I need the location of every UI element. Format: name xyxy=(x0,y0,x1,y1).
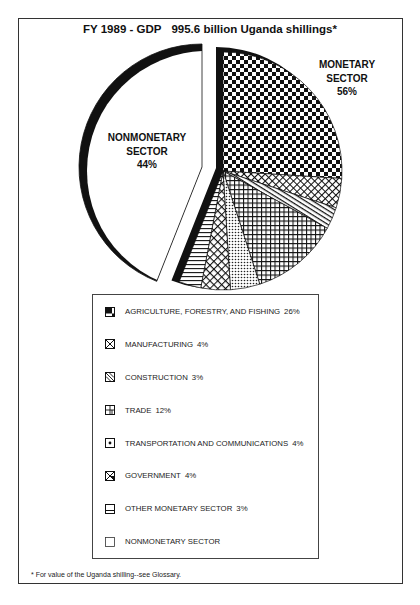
legend-item-manufacturing: MANUFACTURING4% xyxy=(93,328,318,361)
legend-value: 4% xyxy=(185,471,196,480)
legend-label: NONMONETARY SECTOR xyxy=(125,537,220,546)
legend-value: 3% xyxy=(192,373,203,382)
chart-legend: AGRICULTURE, FORESTRY, AND FISHING26% MA… xyxy=(92,294,319,559)
horizontal-stripes-icon xyxy=(105,504,115,514)
legend-value: 12% xyxy=(155,406,171,415)
legend-label: AGRICULTURE, FORESTRY, AND FISHING xyxy=(125,307,280,316)
legend-label: TRADE xyxy=(125,406,151,415)
monetary-label-line1: MONETARY xyxy=(287,58,407,72)
legend-item-construction: CONSTRUCTION3% xyxy=(93,361,318,394)
legend-label: TRANSPORTATION AND COMMUNICATIONS xyxy=(125,439,288,448)
legend-label: OTHER MONETARY SECTOR xyxy=(125,504,232,513)
dot-pattern-icon xyxy=(105,438,115,448)
footnote: * For value of the Uganda shilling--see … xyxy=(31,570,181,580)
legend-value: 4% xyxy=(292,439,303,448)
nonmonetary-label-line2: SECTOR xyxy=(87,145,207,159)
legend-value: 4% xyxy=(197,340,208,349)
crosshatch-large-icon xyxy=(105,471,115,481)
legend-value: 26% xyxy=(284,307,300,316)
blank-box-icon xyxy=(105,537,115,547)
legend-item-agriculture: AGRICULTURE, FORESTRY, AND FISHING26% xyxy=(93,295,318,328)
legend-label: MANUFACTURING xyxy=(125,340,193,349)
legend-item-nonmonetary: NONMONETARY SECTOR xyxy=(93,525,318,558)
legend-label: GOVERNMENT xyxy=(125,471,181,480)
legend-item-trade: TRADE12% xyxy=(93,394,318,427)
legend-item-other-monetary: OTHER MONETARY SECTOR3% xyxy=(93,492,318,525)
grid-pattern-icon xyxy=(105,405,115,415)
legend-value: 3% xyxy=(236,504,247,513)
monetary-sector-label: MONETARY SECTOR 56% xyxy=(287,58,407,99)
diagonal-stripes-icon xyxy=(105,372,115,382)
legend-item-transportation: TRANSPORTATION AND COMMUNICATIONS4% xyxy=(93,427,318,460)
nonmonetary-sector-label: NONMONETARY SECTOR 44% xyxy=(87,131,207,172)
crosshatch-pattern-icon xyxy=(105,339,115,349)
nonmonetary-label-line1: NONMONETARY xyxy=(87,131,207,145)
nonmonetary-label-percent: 44% xyxy=(87,158,207,172)
checker-pattern-icon xyxy=(105,307,115,317)
monetary-label-line2: SECTOR xyxy=(287,72,407,86)
legend-label: CONSTRUCTION xyxy=(125,373,188,382)
pie-chart xyxy=(0,0,420,300)
monetary-label-percent: 56% xyxy=(287,85,407,99)
legend-item-government: GOVERNMENT4% xyxy=(93,459,318,492)
